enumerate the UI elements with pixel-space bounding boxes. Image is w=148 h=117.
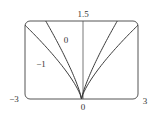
- level-curve--1-right: [82, 25, 139, 99]
- level-curves-figure: 1.5 −3 3 0 0 −1: [0, 0, 148, 117]
- y-max-tick-label: 1.5: [77, 9, 89, 19]
- x-origin-tick-label: 0: [81, 102, 86, 112]
- x-min-tick-label: −3: [9, 94, 19, 104]
- curve-label-0: 0: [64, 35, 69, 45]
- level-curve--1: [25, 25, 82, 99]
- curve-label-minus-1: −1: [36, 59, 46, 69]
- x-max-tick-label: 3: [143, 96, 148, 106]
